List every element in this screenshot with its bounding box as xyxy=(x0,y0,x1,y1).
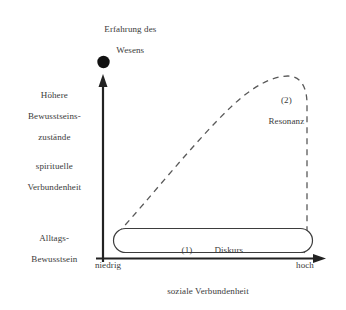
diskurs-region-label: (1)Diskurs xyxy=(130,234,290,255)
x-axis-tick-high: hoch xyxy=(285,260,325,271)
diskurs-region-name: Diskurs xyxy=(214,245,243,255)
resonanz-region-label: (2) Resonanz xyxy=(253,84,315,126)
resonanz-region-number: (2) xyxy=(281,95,292,105)
y-axis-label-everyday-line1: Alltags- xyxy=(39,233,69,243)
resonanz-region-name: Resonanz xyxy=(268,116,304,126)
chart-title: Erfahrung des Wesens xyxy=(63,13,193,55)
y-axis-label-spiritual-line2: Verbundenheit xyxy=(27,182,81,192)
chart-title-line1: Erfahrung des xyxy=(104,24,156,34)
y-axis-label-higher-states-line2: Bewusstseins- xyxy=(28,111,81,121)
essence-dot-marker xyxy=(97,56,109,68)
diskurs-region-number: (1) xyxy=(182,245,193,255)
y-axis-label-everyday-line2: Bewusstsein xyxy=(31,254,77,264)
y-axis-label-spiritual-line1: spirituelle xyxy=(36,161,73,171)
y-axis xyxy=(99,74,108,262)
y-axis-label-everyday-consciousness: Alltags- Bewusstsein xyxy=(8,222,96,264)
x-axis-tick-low: niedrig xyxy=(88,260,128,271)
y-axis-label-higher-states: Höhere Bewusstseins- zustände xyxy=(8,79,96,143)
y-axis-label-higher-states-line3: zustände xyxy=(38,132,70,142)
y-axis-label-spiritual-connectedness: spirituelle Verbundenheit xyxy=(8,150,96,192)
y-axis-label-higher-states-line1: Höhere xyxy=(41,90,68,100)
chart-title-line2: Wesens xyxy=(116,45,144,55)
y-axis-arrowhead xyxy=(99,74,108,87)
x-axis-title: soziale Verbundenheit xyxy=(98,286,318,297)
